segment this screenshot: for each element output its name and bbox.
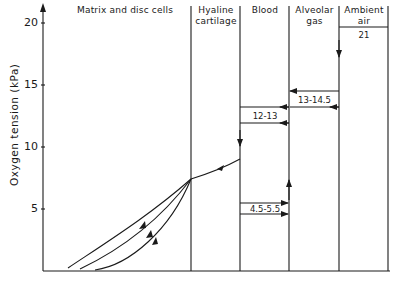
label-alveolar-1: Alveolar <box>290 5 339 15</box>
label-blood: Blood <box>241 5 289 15</box>
label-ambient-1: Ambient <box>340 5 388 15</box>
y-tick-10: 10 <box>18 141 38 153</box>
value-ambient: 21 <box>340 30 388 40</box>
y-axis-arrow-icon <box>40 3 46 12</box>
label-matrix: Matrix and disc cells <box>60 5 190 15</box>
label-ambient-2: air <box>340 16 388 26</box>
label-alveolar-2: gas <box>290 16 339 26</box>
oxygen-cascade-diagram: 20 15 10 5 Oxygen tension (kPa) Matrix a… <box>0 0 396 281</box>
hyaline-gradient-curve <box>191 159 240 179</box>
y-tick-20: 20 <box>18 17 38 29</box>
label-hyaline-1: Hyaline <box>192 5 240 15</box>
label-hyaline-2: cartilage <box>192 16 240 26</box>
value-blood-arterial: 12-13 <box>241 111 289 121</box>
y-tick-5: 5 <box>18 203 38 215</box>
matrix-curve-1 <box>68 179 191 268</box>
value-blood-venous: 4.5-5.5 <box>241 204 289 214</box>
value-alveolar: 13-14.5 <box>290 95 339 105</box>
y-tick-15: 15 <box>18 79 38 91</box>
y-axis-label: Oxygen tension (kPa) <box>8 66 20 186</box>
diagram-canvas <box>0 0 396 281</box>
